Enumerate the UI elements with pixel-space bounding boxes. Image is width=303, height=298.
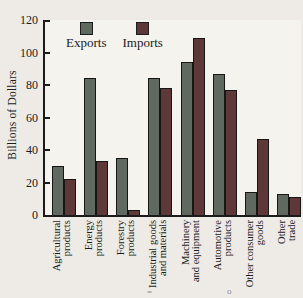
bar-exports-forestry [116, 158, 128, 215]
bar-imports-industrial-goods [160, 88, 172, 215]
bar-exports-energy [84, 78, 96, 215]
bar-imports-machinery [193, 38, 205, 215]
figure-canvas: Billions of Dollars 020406080100120 Expo… [0, 0, 303, 298]
legend-item-imports: Imports [122, 22, 162, 50]
bar-exports-automotive [213, 74, 225, 215]
x-label-automotive: Automotive products [213, 220, 233, 270]
y-tick-label-80: 80 [6, 79, 38, 91]
y-tick-20 [45, 182, 50, 184]
scan-artifact-right: o [227, 287, 232, 296]
bar-imports-other [289, 197, 301, 215]
y-tick-label-0: 0 [6, 209, 38, 221]
legend-label-exports: Exports [66, 36, 106, 50]
x-label-other: Other trade [277, 220, 297, 244]
legend-swatch-imports [136, 22, 149, 35]
y-tick-label-20: 20 [6, 177, 38, 189]
x-label-industrial-goods: Industrial goods and materials [148, 220, 168, 288]
x-label-other-consumer: Other consumer goods [245, 220, 265, 287]
y-tick-label-100: 100 [6, 47, 38, 59]
legend-label-imports: Imports [122, 36, 162, 50]
legend: ExportsImports [66, 22, 163, 50]
y-tick-40 [45, 149, 50, 151]
legend-item-exports: Exports [66, 22, 106, 50]
bar-imports-energy [96, 161, 108, 215]
bar-imports-agricultural [64, 179, 76, 215]
bar-exports-agricultural [52, 166, 64, 215]
y-tick-label-60: 60 [6, 112, 38, 124]
y-tick-80 [45, 84, 50, 86]
bar-exports-other-consumer [245, 192, 257, 215]
bar-exports-machinery [181, 62, 193, 215]
y-tick-100 [45, 52, 50, 54]
bar-exports-other [277, 194, 289, 215]
x-label-forestry: Forestry products [116, 220, 136, 256]
y-tick-60 [45, 117, 50, 119]
bar-imports-automotive [225, 90, 237, 215]
x-label-machinery: Machinery and equipment [181, 220, 201, 282]
bar-imports-forestry [128, 210, 140, 215]
y-tick-120 [45, 20, 50, 22]
bar-imports-other-consumer [257, 139, 269, 215]
y-tick-label-40: 40 [6, 144, 38, 156]
x-label-energy: Energy products [84, 220, 104, 256]
scan-artifact-left: = [147, 288, 152, 297]
legend-swatch-exports [80, 22, 93, 35]
x-label-agricultural: Agricultural products [52, 220, 72, 271]
bar-exports-industrial-goods [148, 78, 160, 215]
y-tick-label-120: 120 [6, 14, 38, 26]
